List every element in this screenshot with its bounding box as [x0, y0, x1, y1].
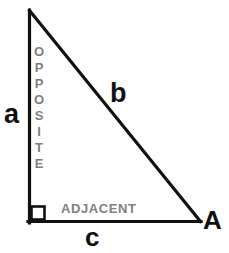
opposite-letter-3: O	[34, 92, 45, 108]
side-label-b: b	[110, 80, 127, 107]
vertex-label-a-angle: A	[203, 207, 222, 233]
opposite-letter-1: P	[35, 60, 44, 76]
opposite-letter-4: S	[35, 108, 44, 124]
opposite-side-annotation: OPPOSITE	[34, 44, 45, 172]
right-angle-marker	[32, 207, 45, 220]
opposite-letter-7: E	[35, 156, 44, 172]
opposite-letter-2: P	[35, 76, 44, 92]
adjacent-side-annotation: ADJACENT	[61, 202, 137, 215]
right-triangle-diagram: a b c A OPPOSITE ADJACENT	[0, 0, 229, 253]
opposite-letter-5: I	[37, 124, 41, 140]
clipped-caption	[0, 246, 229, 253]
opposite-letter-6: T	[35, 140, 43, 156]
side-label-a: a	[4, 101, 19, 128]
triangle-hypotenuse	[30, 11, 201, 222]
opposite-letter-0: O	[34, 44, 45, 60]
